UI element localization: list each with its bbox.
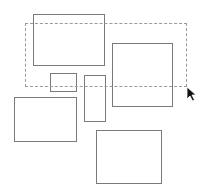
selection-marquee (25, 23, 187, 87)
shape-rect-bottom-right[interactable] (96, 130, 162, 184)
arrow-pointer-icon (186, 86, 198, 102)
shape-rect-bottom-left[interactable] (14, 97, 77, 142)
drawing-canvas[interactable] (0, 0, 200, 191)
